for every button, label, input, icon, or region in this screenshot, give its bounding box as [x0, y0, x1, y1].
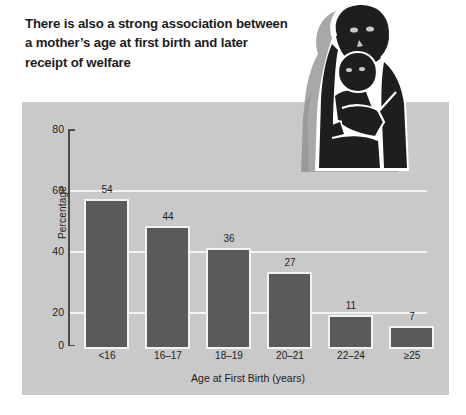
bar-value-0: 54 — [101, 184, 112, 195]
bar-4[interactable] — [328, 315, 373, 349]
gridline-60 — [69, 190, 427, 192]
x-tick-label-4: 22–24 — [337, 350, 365, 361]
x-axis-title: Age at First Birth (years) — [69, 372, 427, 384]
bar-0[interactable] — [84, 199, 129, 349]
bar-value-2: 36 — [223, 233, 234, 244]
x-tick-label-2: 18–19 — [215, 350, 243, 361]
y-axis-line — [68, 129, 70, 346]
bar-value-4: 11 — [346, 300, 356, 311]
bar-5[interactable] — [389, 326, 434, 349]
x-tick-label-3: 20–21 — [276, 350, 304, 361]
y-tick-label-0: 0 — [24, 339, 64, 351]
y-axis-title: Percentage — [57, 153, 68, 273]
y-axis-top-nub — [68, 129, 75, 131]
x-tick-label-5: ≥25 — [404, 350, 421, 361]
page-title: There is also a strong association betwe… — [25, 14, 310, 72]
bar-value-3: 27 — [284, 257, 295, 268]
page-title-line-3: receipt of welfare — [25, 53, 310, 72]
bar-3[interactable] — [267, 272, 312, 349]
bar-value-1: 44 — [162, 211, 173, 222]
page-title-line-1: There is also a strong association betwe… — [25, 14, 310, 33]
x-tick-label-1: 16–17 — [154, 350, 182, 361]
bar-2[interactable] — [206, 248, 251, 350]
x-tick-label-0: <16 — [99, 350, 116, 361]
y-tick-label-20: 20 — [24, 306, 64, 318]
y-axis-bottom-nub — [68, 345, 75, 347]
bar-value-5: 7 — [409, 311, 415, 322]
y-tick-label-80: 80 — [24, 123, 64, 135]
page-title-line-2: a mother’s age at first birth and later — [25, 33, 310, 52]
bar-1[interactable] — [145, 226, 190, 349]
